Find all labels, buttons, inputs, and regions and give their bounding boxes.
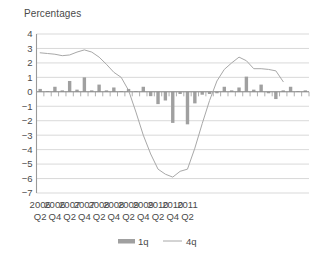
bar: [223, 87, 226, 92]
y-tick-label: −5: [22, 158, 33, 169]
series-line-4q: [40, 50, 283, 177]
x-tick-year: 2011: [177, 199, 197, 210]
bar: [274, 92, 277, 99]
x-tick-quarter: Q2: [34, 211, 47, 222]
x-tick-quarter: Q2: [152, 211, 165, 222]
legend-swatch-1q: [118, 239, 135, 244]
bar: [245, 77, 248, 92]
line-series-4q: [40, 50, 283, 177]
bar: [259, 85, 262, 92]
y-tick-label: 4: [27, 28, 32, 39]
bar: [289, 87, 292, 92]
bar: [164, 92, 167, 101]
y-tick-label: 3: [27, 43, 32, 54]
legend-label-1q: 1q: [138, 236, 149, 247]
y-tick-label: −2: [22, 115, 33, 126]
chart-plot-area: 43210−1−2−3−4−5−6−7 2006Q22006Q42007Q220…: [0, 0, 324, 258]
x-tick-quarter: Q2: [122, 211, 135, 222]
x-tick-quarter: Q4: [78, 211, 91, 222]
bar-series-1q: [38, 77, 307, 125]
x-tick-quarter: Q2: [63, 211, 76, 222]
bar: [83, 77, 86, 91]
bar: [149, 92, 152, 96]
y-tick-label: 1: [27, 72, 32, 83]
bar: [171, 92, 174, 123]
y-tick-label: −3: [22, 130, 33, 141]
x-tick-quarter: Q4: [49, 211, 62, 222]
bar: [142, 87, 145, 92]
bar: [53, 87, 56, 92]
y-tick-label: 0: [27, 86, 32, 97]
y-tick-label: −1: [22, 101, 33, 112]
x-tick-quarter: Q4: [166, 211, 179, 222]
bar: [97, 85, 100, 92]
percentages-chart: Percentages 43210−1−2−3−4−5−6−7 2006Q220…: [0, 0, 324, 258]
bar: [112, 87, 115, 91]
y-tick-label: −7: [22, 187, 33, 198]
y-tick-label: 2: [27, 57, 32, 68]
x-tick-quarter: Q2: [181, 211, 194, 222]
bar: [193, 92, 196, 104]
bar: [237, 87, 240, 91]
bar: [68, 81, 71, 92]
bar: [156, 92, 159, 104]
x-tick-quarter: Q4: [137, 211, 150, 222]
bar: [186, 92, 189, 125]
legend-label-4q: 4q: [186, 236, 197, 247]
y-tick-label: −6: [22, 173, 33, 184]
chart-legend: 1q4q: [118, 236, 197, 247]
x-axis-labels: 2006Q22006Q42007Q22007Q42008Q22008Q42009…: [30, 199, 198, 222]
x-tick-quarter: Q4: [107, 211, 120, 222]
y-axis-labels: 43210−1−2−3−4−5−6−7: [22, 28, 33, 198]
x-tick-quarter: Q2: [93, 211, 106, 222]
y-tick-label: −4: [22, 144, 33, 155]
